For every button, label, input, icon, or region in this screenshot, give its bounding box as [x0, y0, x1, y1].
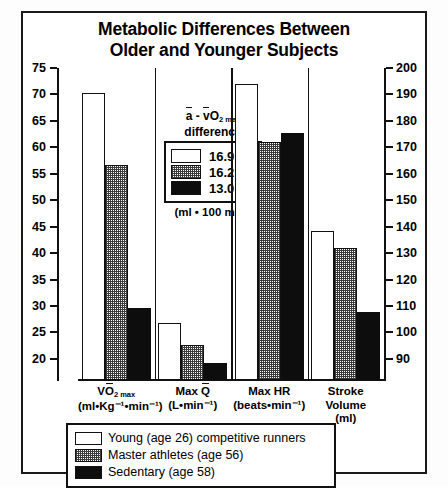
legend-row-young: Young (age 26) competitive runners	[75, 430, 328, 447]
right-tick-label: 100	[396, 326, 417, 338]
right-tick-label: 130	[396, 247, 417, 259]
left-tick-label: 75	[23, 62, 46, 74]
right-tick-mark	[386, 331, 393, 333]
group-separator	[231, 68, 233, 380]
group-separator	[308, 68, 310, 380]
a-bar-symbol: a	[186, 109, 193, 123]
swatch-master-icon	[75, 449, 102, 462]
bar-max-q-sedentary	[204, 363, 227, 380]
chart-title: Metabolic Differences Between Older and …	[23, 19, 425, 61]
right-tick-mark	[386, 120, 393, 122]
bar-vo2max-young	[82, 93, 105, 380]
left-tick-label: 70	[23, 88, 46, 100]
av-o2-dash: -	[192, 109, 203, 123]
left-tick-mark	[50, 305, 57, 307]
swatch-master-icon	[171, 165, 201, 179]
right-tick-mark	[386, 93, 393, 95]
swatch-sedentary-icon	[171, 181, 201, 195]
category-label-line-3: (ml)	[308, 412, 385, 426]
right-tick-label: 110	[396, 300, 416, 312]
left-tick-mark	[50, 199, 57, 201]
legend-label: Young (age 26) competitive runners	[108, 432, 306, 445]
bar-max-hr-young	[235, 84, 258, 380]
category-label-line-1: Stroke	[308, 385, 385, 399]
swatch-sedentary-icon	[75, 466, 102, 479]
legend-row-sedentary: Sedentary (age 58)	[75, 464, 328, 481]
right-tick-label: 120	[396, 274, 417, 286]
left-y-axis	[57, 68, 59, 381]
category-label-max-hr: Max HR(beats•min⁻¹)	[231, 385, 308, 412]
left-tick-label: 25	[23, 326, 46, 338]
category-label-max-q: Max Q(L•min⁻¹)	[155, 385, 232, 412]
right-tick-mark	[386, 252, 393, 254]
left-tick-label: 45	[23, 221, 46, 233]
left-tick-mark	[50, 279, 57, 281]
right-tick-mark	[386, 67, 393, 69]
bar-max-hr-master	[258, 142, 281, 380]
category-label-line-1: VO2 max	[78, 385, 155, 400]
left-tick-label: 65	[23, 115, 46, 127]
left-tick-mark	[50, 146, 57, 148]
v-bar-symbol: v	[203, 109, 210, 123]
right-tick-mark	[386, 358, 393, 360]
right-tick-label: 170	[396, 141, 417, 153]
right-tick-label: 190	[396, 88, 417, 100]
right-tick-label: 150	[396, 194, 417, 206]
left-tick-mark	[50, 67, 57, 69]
category-label-line-2: (beats•min⁻¹)	[231, 399, 308, 413]
left-tick-mark	[50, 120, 57, 122]
category-label-stroke-volume: StrokeVolume(ml)	[308, 385, 385, 426]
chart-title-line-1: Metabolic Differences Between	[23, 19, 425, 40]
right-tick-label: 90	[396, 353, 410, 365]
bar-max-q-master	[181, 345, 204, 380]
left-tick-mark	[50, 173, 57, 175]
bar-stroke-volume-young	[311, 231, 334, 380]
legend-label: Master athletes (age 56)	[108, 449, 244, 462]
left-tick-label: 50	[23, 194, 46, 206]
left-tick-label: 60	[23, 141, 46, 153]
left-tick-label: 20	[23, 353, 46, 365]
left-tick-mark	[50, 331, 57, 333]
category-label-vo2max: VO2 max(ml•Kg⁻¹•min⁻¹)	[78, 385, 155, 413]
right-tick-mark	[386, 226, 393, 228]
swatch-young-icon	[171, 149, 201, 163]
right-tick-label: 140	[396, 221, 417, 233]
left-tick-mark	[50, 93, 57, 95]
right-tick-mark	[386, 279, 393, 281]
right-tick-label: 160	[396, 168, 417, 180]
right-tick-mark	[386, 173, 393, 175]
category-label-line-2: (ml•Kg⁻¹•min⁻¹)	[78, 400, 155, 414]
bar-max-q-young	[158, 323, 181, 380]
o-symbol: O	[210, 109, 219, 123]
left-tick-mark	[50, 226, 57, 228]
left-tick-label: 35	[23, 274, 46, 286]
left-tick-mark	[50, 358, 57, 360]
series-legend: Young (age 26) competitive runnersMaster…	[66, 423, 336, 488]
category-label-line-1: Max HR	[231, 385, 308, 399]
left-tick-mark	[50, 252, 57, 254]
left-tick-label: 30	[23, 300, 46, 312]
right-tick-label: 180	[396, 115, 417, 127]
legend-label: Sedentary (age 58)	[108, 466, 215, 479]
swatch-young-icon	[75, 432, 102, 445]
chart-title-line-2: Older and Younger Subjects	[23, 40, 425, 61]
right-tick-mark	[386, 305, 393, 307]
right-tick-mark	[386, 199, 393, 201]
group-separator	[155, 68, 157, 380]
figure-border: Metabolic Differences Between Older and …	[21, 11, 427, 474]
bar-vo2max-master	[105, 165, 128, 380]
category-label-line-1: Max Q	[155, 385, 232, 399]
category-label-line-2: (L•min⁻¹)	[155, 399, 232, 413]
right-tick-mark	[386, 146, 393, 148]
bar-vo2max-sedentary	[128, 308, 151, 380]
legend-row-master: Master athletes (age 56)	[75, 447, 328, 464]
right-tick-label: 200	[396, 62, 417, 74]
left-tick-label: 40	[23, 247, 46, 259]
category-label-line-2: Volume	[308, 399, 385, 413]
left-tick-label: 55	[23, 168, 46, 180]
right-y-axis	[384, 68, 386, 381]
bar-max-hr-sedentary	[281, 133, 304, 380]
bar-stroke-volume-sedentary	[357, 312, 380, 380]
bar-stroke-volume-master	[334, 248, 357, 380]
